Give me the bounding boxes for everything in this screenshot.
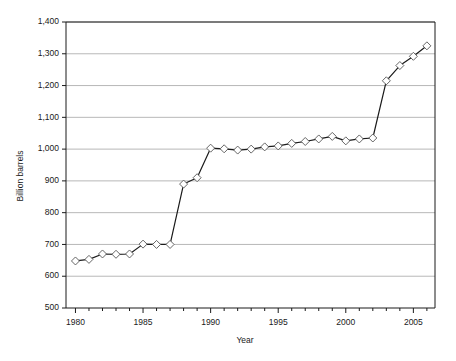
- x-tick-label-1995: 1995: [269, 317, 288, 327]
- y-tick-label-1200: 1,200: [38, 80, 60, 90]
- x-tick-label-1990: 1990: [201, 317, 220, 327]
- chart-figure: 5006007008009001,0001,1001,2001,3001,400…: [0, 0, 456, 361]
- x-tick-label-2005: 2005: [404, 317, 423, 327]
- y-tick-label-800: 800: [45, 207, 59, 217]
- y-axis-title: Billion barrels: [15, 150, 25, 201]
- x-tick-label-1980: 1980: [66, 317, 85, 327]
- x-tick-label-1985: 1985: [134, 317, 153, 327]
- y-tick-label-1000: 1,000: [38, 143, 60, 153]
- y-tick-label-1100: 1,100: [38, 112, 60, 122]
- y-tick-label-600: 600: [45, 270, 59, 280]
- line-chart: 5006007008009001,0001,1001,2001,3001,400…: [0, 0, 456, 361]
- y-tick-label-900: 900: [45, 175, 59, 185]
- y-tick-label-1300: 1,300: [38, 48, 60, 58]
- chart-background: [0, 0, 456, 361]
- x-tick-label-2000: 2000: [336, 317, 355, 327]
- y-tick-label-1400: 1,400: [38, 16, 60, 26]
- y-tick-label-500: 500: [45, 302, 59, 312]
- y-tick-label-700: 700: [45, 239, 59, 249]
- x-axis-title: Year: [236, 335, 253, 345]
